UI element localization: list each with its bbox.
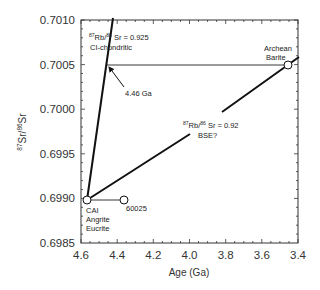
eucrite-label: Eucrite — [86, 224, 109, 233]
x-tick-label: 4.4 — [109, 249, 126, 261]
y-tick-label: 0.6995 — [40, 148, 75, 160]
archean-label: Archean — [264, 44, 292, 53]
y-tick-labels: 0.7010 0.7005 0.7000 0.6995 0.6990 0.698… — [40, 14, 75, 249]
x-tick-label: 4.0 — [182, 249, 198, 261]
bse-sublabel: BSE? — [198, 131, 217, 140]
y-tick-label: 0.7000 — [40, 103, 75, 115]
y-tick-label: 0.6985 — [40, 237, 75, 249]
marker-cai — [83, 196, 91, 204]
bse-evolution-line — [87, 134, 190, 200]
bse-label: 87Rb/86 Sr = 0.92 — [183, 120, 239, 130]
x-tick-label: 3.8 — [218, 249, 234, 261]
marker-60025 — [120, 196, 128, 204]
angrite-label: Angrite — [86, 215, 110, 224]
x-tick-label: 4.2 — [145, 249, 161, 261]
chart: 0.7010 0.7005 0.7000 0.6995 0.6990 0.698… — [0, 0, 320, 290]
y-tick-label: 0.6990 — [40, 192, 75, 204]
y-tick-label: 0.7010 — [40, 14, 75, 26]
cai-label: CAI — [86, 206, 99, 215]
x-tick-label: 3.4 — [290, 249, 307, 261]
age-arrow-label: 4.46 Ga — [125, 89, 153, 98]
barite-label: Barite — [266, 53, 286, 62]
y-axis-title: 87Sr/86Sr — [16, 113, 28, 151]
x-axis-title: Age (Ga) — [169, 267, 210, 278]
x-tick-label: 3.6 — [254, 249, 270, 261]
chondritic-sublabel: CI-chondritic — [90, 43, 132, 52]
arrow-4-46-ga — [109, 67, 124, 87]
chondritic-label: 87Rb/86 Sr = 0.925 — [89, 32, 149, 42]
sample-60025-label: 60025 — [126, 204, 147, 213]
marker-archean-barite — [284, 61, 292, 69]
y-tick-label: 0.7005 — [40, 59, 75, 71]
x-tick-labels: 4.6 4.4 4.2 4.0 3.8 3.6 3.4 — [73, 249, 307, 261]
x-tick-label: 4.6 — [73, 249, 89, 261]
